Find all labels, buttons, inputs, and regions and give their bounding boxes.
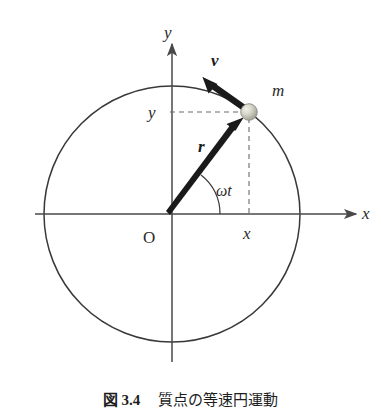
figure-caption-label: 図 3.4 <box>103 392 141 408</box>
y-axis-label: y <box>162 23 172 42</box>
figure-caption: 図 3.4質点の等速円運動 <box>0 388 381 409</box>
figure-caption-title: 質点の等速円運動 <box>158 392 278 408</box>
circular-motion-diagram: y x O r v m ωt y x <box>0 0 381 415</box>
mass-label: m <box>272 81 284 100</box>
x-coordinate-label: x <box>242 224 251 243</box>
position-vector-arrow <box>166 118 244 216</box>
angle-label: ωt <box>216 182 232 199</box>
velocity-vector-arrow <box>203 77 248 111</box>
x-axis-label: x <box>361 204 370 223</box>
y-coordinate-label: y <box>146 103 156 122</box>
position-vector-label: r <box>198 137 205 156</box>
figure-page: y x O r v m ωt y x 図 3.4質点の等速円運動 <box>0 0 381 415</box>
particle-mass-dot <box>241 104 258 121</box>
velocity-vector-label: v <box>211 51 219 70</box>
origin-label: O <box>143 228 155 247</box>
